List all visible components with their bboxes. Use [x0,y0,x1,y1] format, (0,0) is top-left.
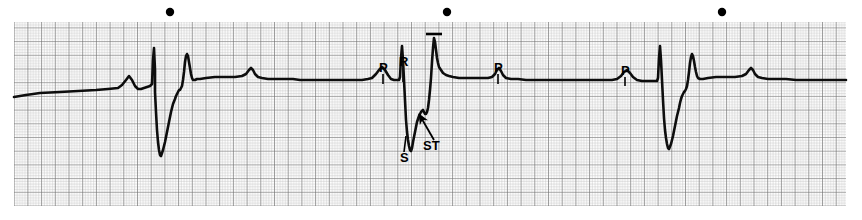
beat-marker-dot-1 [166,8,174,16]
label-p-wave-3: P [621,63,630,78]
ecg-strip-figure: PRSSTPP [0,0,862,220]
beat-marker-dot-2 [443,8,451,16]
label-r-wave: R [399,54,409,69]
label-s-wave: S [400,150,409,165]
beat-marker-dot-3 [718,8,726,16]
ecg-graph-paper [14,22,846,206]
label-p-wave-1: P [379,60,388,75]
grid-area [14,22,846,206]
label-p-wave-2: P [494,60,503,75]
label-st-segment: ST [423,138,440,153]
ecg-canvas: PRSSTPP [0,0,862,220]
